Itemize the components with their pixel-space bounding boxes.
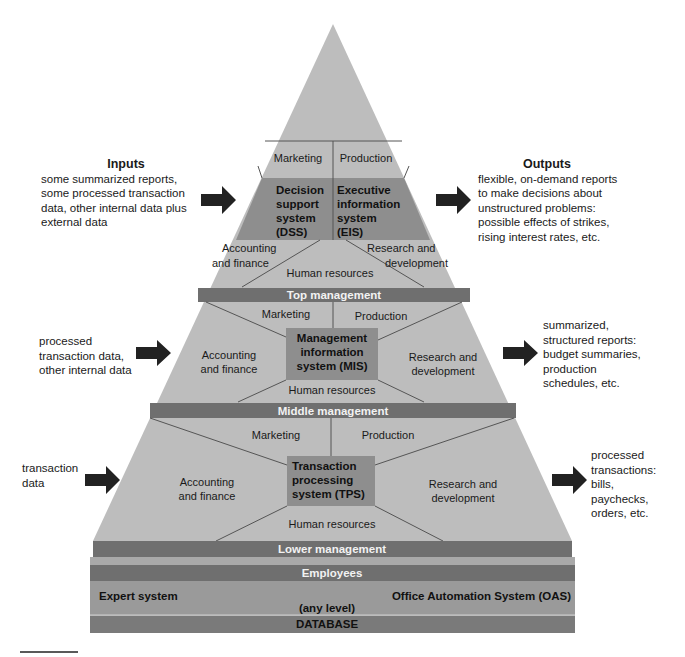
top-outputs-text: Outputs flexible, on-demand reports to m…: [478, 157, 658, 244]
employees-label: Employees: [302, 567, 363, 579]
mid-research-1: Research and: [409, 351, 478, 363]
mid-marketing: Marketing: [262, 308, 310, 320]
mid-outputs-line-4: production: [543, 362, 683, 377]
mid-outputs-line-3: budget summaries,: [543, 347, 683, 362]
mid-inputs-line-3: other internal data: [39, 363, 149, 378]
low-outputs-line-3: bills,: [591, 477, 685, 492]
eis-line-1: Executive: [337, 184, 391, 196]
outputs-heading: Outputs: [478, 157, 658, 172]
top-inputs-line-4: external data: [41, 215, 211, 230]
mis-line-1: Management: [297, 332, 367, 344]
top-right-diag: [404, 166, 409, 178]
low-marketing: Marketing: [252, 429, 300, 441]
mid-output-arrow: [503, 340, 538, 366]
top-research-2: development: [385, 257, 448, 269]
top-inputs-line-3: data, other internal data plus: [41, 201, 211, 216]
top-accounting-1: Accounting: [222, 242, 276, 254]
low-accounting-1: Accounting: [180, 476, 234, 488]
top-outputs-line-1: flexible, on-demand reports: [478, 172, 658, 187]
mid-inputs-text: processed transaction data, other intern…: [39, 334, 149, 378]
low-output-arrow: [552, 466, 587, 494]
dss-line-3: system: [276, 212, 316, 224]
mid-inputs-line-2: transaction data,: [39, 349, 149, 364]
low-inputs-text: transaction data: [22, 461, 92, 490]
top-outputs-line-3: unstructured problems:: [478, 201, 658, 216]
top-inputs-text: Inputs some summarized reports, some pro…: [41, 157, 211, 230]
low-research-2: development: [432, 492, 495, 504]
database-label: DATABASE: [296, 618, 359, 630]
eis-line-2: information: [337, 198, 400, 210]
top-inputs-line-1: some summarized reports,: [41, 172, 211, 187]
mid-human-resources: Human resources: [289, 384, 376, 396]
low-outputs-line-2: transactions:: [591, 463, 685, 478]
mid-outputs-line-1: summarized,: [543, 318, 683, 333]
mis-line-2: information: [300, 346, 363, 358]
mid-research-2: development: [412, 365, 475, 377]
expert-system-label: Expert system: [99, 590, 178, 602]
low-production: Production: [362, 429, 415, 441]
tps-line-3: system (TPS): [292, 488, 365, 500]
mid-accounting-1: Accounting: [202, 349, 256, 361]
top-production: Production: [340, 152, 393, 164]
low-outputs-line-5: orders, etc.: [591, 506, 685, 521]
oas-label: Office Automation System (OAS): [392, 590, 571, 602]
mid-inputs-line-1: processed: [39, 334, 149, 349]
low-inputs-line-1: transaction: [22, 461, 92, 476]
inputs-heading: Inputs: [41, 157, 211, 172]
low-outputs-line-1: processed: [591, 448, 685, 463]
top-accounting-2: and finance: [212, 257, 269, 269]
low-inputs-line-2: data: [22, 476, 92, 491]
low-outputs-line-4: paychecks,: [591, 492, 685, 507]
mis-line-3: system (MIS): [297, 360, 368, 372]
top-outputs-line-2: to make decisions about: [478, 186, 658, 201]
mid-outputs-text: summarized, structured reports: budget s…: [543, 318, 683, 391]
top-inputs-line-2: some processed transaction: [41, 186, 211, 201]
lower-management-label: Lower management: [278, 543, 386, 555]
eis-line-4: (EIS): [337, 226, 363, 238]
low-human-resources: Human resources: [289, 518, 376, 530]
top-marketing: Marketing: [274, 152, 322, 164]
dss-line-4: (DSS): [276, 226, 307, 238]
top-output-arrow: [436, 186, 471, 214]
low-research-1: Research and: [429, 478, 498, 490]
top-left-diag: [258, 166, 262, 178]
top-outputs-line-4: possible effects of strikes,: [478, 215, 658, 230]
low-accounting-2: and finance: [179, 490, 236, 502]
middle-management-label: Middle management: [278, 405, 389, 417]
tps-line-2: processing: [292, 474, 353, 486]
any-level-label: (any level): [299, 602, 355, 614]
mid-outputs-line-2: structured reports:: [543, 333, 683, 348]
mid-accounting-2: and finance: [201, 363, 258, 375]
top-research-1: Research and: [367, 242, 436, 254]
mid-outputs-line-5: schedules, etc.: [543, 376, 683, 391]
top-management-label: Top management: [287, 289, 382, 301]
mid-production: Production: [355, 310, 408, 322]
eis-line-3: system: [337, 212, 377, 224]
dss-line-2: support: [276, 198, 319, 210]
top-human-resources: Human resources: [287, 267, 374, 279]
tps-line-1: Transaction: [292, 460, 357, 472]
top-outputs-line-5: rising interest rates, etc.: [478, 230, 658, 245]
low-outputs-text: processed transactions: bills, paychecks…: [591, 448, 685, 521]
dss-line-1: Decision: [276, 184, 324, 196]
